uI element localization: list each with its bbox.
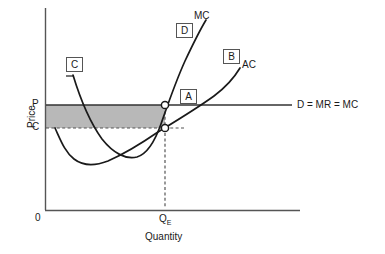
callout-box-d[interactable]: D	[176, 23, 193, 38]
economics-diagram-svg	[0, 0, 385, 254]
callout-box-a[interactable]: A	[180, 89, 197, 104]
mc-curve-label: MC	[194, 11, 210, 21]
y-tick-cost: C	[32, 122, 39, 132]
demand-line-label: D = MR = MC	[297, 100, 358, 110]
x-tick-quantity-base: Q	[159, 213, 167, 224]
callout-box-b[interactable]: B	[223, 49, 240, 64]
x-tick-quantity-equilibrium: QE	[159, 214, 171, 226]
callout-box-c[interactable]: C	[66, 57, 83, 72]
equilibrium-cost-point	[161, 124, 168, 131]
ac-curve-label: AC	[242, 60, 256, 70]
diagram-canvas: Price P C 0 QE Quantity MC AC D = MR = M…	[0, 0, 385, 254]
equilibrium-price-point	[161, 101, 168, 108]
x-axis-title: Quantity	[145, 232, 182, 242]
y-tick-price: P	[32, 99, 39, 109]
shaded-region	[46, 105, 165, 128]
x-tick-quantity-subscript: E	[167, 219, 172, 226]
origin-label: 0	[35, 213, 41, 223]
